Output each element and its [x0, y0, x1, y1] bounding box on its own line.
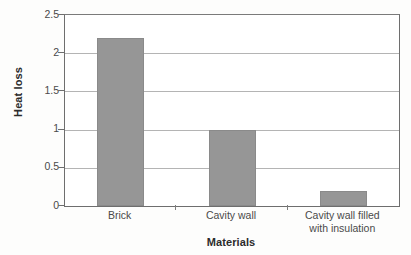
y-axis-tick-label: 1 — [19, 123, 59, 134]
y-axis-tick-label: 0 — [19, 200, 59, 211]
plot-area — [64, 14, 400, 207]
y-axis-tick-label: 0.5 — [19, 161, 59, 172]
bar — [209, 130, 256, 206]
x-axis-category-label: Brick — [64, 209, 175, 222]
x-axis-category-label-line: Cavity wall filled — [287, 209, 398, 222]
y-axis-tick-label: 2.5 — [19, 9, 59, 20]
x-axis-category-label: Cavity wall — [175, 209, 286, 222]
x-axis-category-label: Cavity wall filledwith insulation — [287, 209, 398, 234]
x-axis-title: Materials — [64, 236, 398, 248]
bar — [97, 38, 144, 206]
x-axis-category-label-line: Cavity wall — [175, 209, 286, 222]
bar — [320, 191, 367, 206]
bar-chart-figure: Heat loss 00.511.522.5 BrickCavity wallC… — [0, 0, 411, 255]
y-axis-tick-label: 1.5 — [19, 85, 59, 96]
y-axis-tick-label: 2 — [19, 47, 59, 58]
x-axis-category-label-line: Brick — [64, 209, 175, 222]
x-axis-category-label-line: with insulation — [287, 222, 398, 235]
